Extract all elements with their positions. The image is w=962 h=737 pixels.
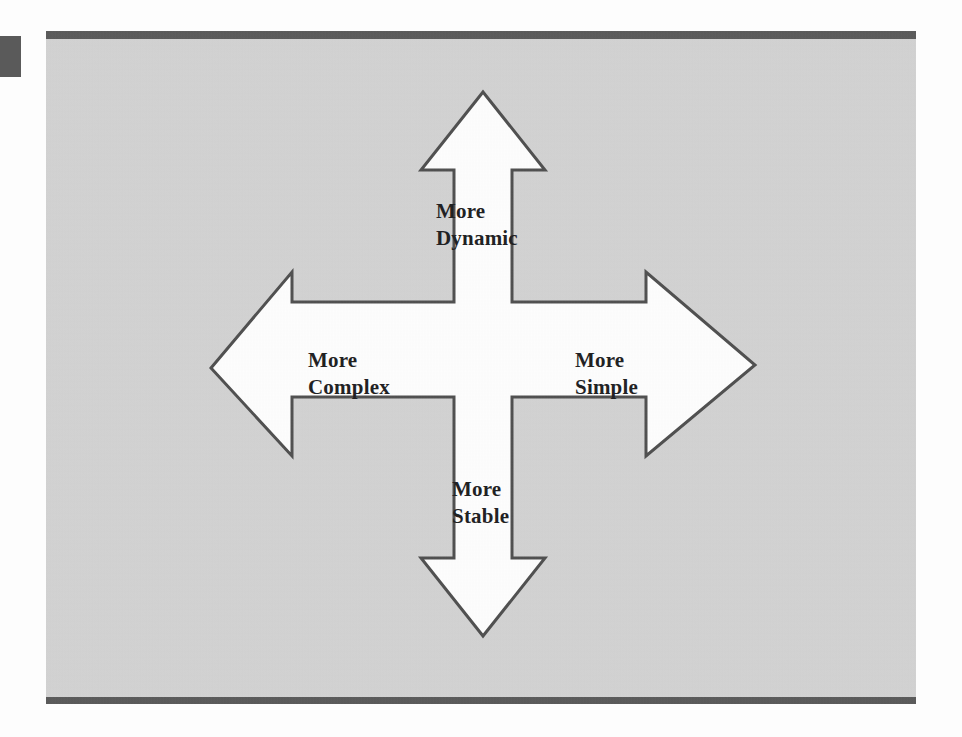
scanned-page-surface: More Dynamic More Complex More Simple Mo…	[0, 0, 962, 737]
figure-panel: More Dynamic More Complex More Simple Mo…	[46, 31, 916, 704]
label-more-simple: More Simple	[575, 347, 638, 402]
label-more-dynamic: More Dynamic	[436, 198, 518, 253]
cross-polygon	[211, 92, 755, 636]
label-more-stable: More Stable	[452, 476, 509, 531]
label-more-complex: More Complex	[308, 347, 390, 402]
four-headed-arrow-shape	[46, 31, 916, 704]
page-edge-artifact	[0, 36, 21, 77]
